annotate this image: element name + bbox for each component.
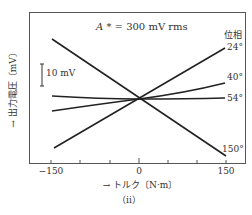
- x-tick-label-right: 150: [217, 166, 234, 176]
- chart-title: A * = 300 mV rms: [95, 21, 188, 32]
- legend-title: 位相: [224, 29, 242, 40]
- label-40deg: 40°: [227, 72, 243, 82]
- scale-bar: [40, 64, 44, 86]
- plot-frame: [30, 13, 246, 164]
- scale-bar-label: 10 mV: [46, 68, 76, 78]
- x-tick-label-zero: 0: [136, 166, 142, 176]
- chart: 10 mV A * = 300 mV rms 位相 24° 40° 54° 15…: [0, 0, 252, 215]
- x-tick-label-left: −150: [39, 166, 64, 176]
- label-150deg: 150°: [222, 144, 244, 154]
- label-54deg: 54°: [227, 93, 243, 103]
- y-axis-label: → 出力電圧〔mV〕: [7, 48, 18, 127]
- figure-caption: （ii）: [117, 195, 141, 205]
- label-24deg: 24°: [227, 42, 243, 52]
- x-axis-label: → トルク〔N·m〕: [103, 180, 178, 190]
- x-ticks: [51, 158, 226, 163]
